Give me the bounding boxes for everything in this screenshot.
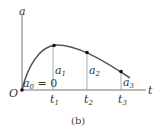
origin-label: O (9, 87, 18, 100)
a1-label: a1 (55, 64, 66, 78)
t3-label: t3 (118, 93, 127, 107)
t2-label: t2 (84, 93, 93, 107)
point-2 (85, 51, 89, 55)
figure-caption: (b) (71, 115, 85, 126)
a3-label: a3 (123, 76, 135, 90)
point-1 (52, 44, 56, 48)
a2-label: a2 (89, 64, 101, 78)
t1-label: t1 (50, 93, 59, 107)
t-axis-label: t (148, 84, 153, 97)
acceleration-time-diagram: a t O a0 = 0 a1 a2 a3 t1 t2 t3 (b) (0, 0, 161, 134)
initial-value-label: a0 = 0 (23, 77, 57, 91)
a-axis-label: a (19, 5, 26, 18)
point-3 (119, 70, 123, 74)
